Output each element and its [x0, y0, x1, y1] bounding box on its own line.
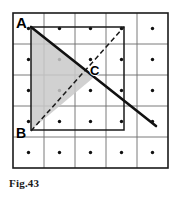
- grid-dot: [27, 27, 30, 30]
- grid-dot: [151, 27, 154, 30]
- grid-dot: [89, 151, 92, 154]
- figure-caption: Fig.43: [9, 177, 39, 189]
- grid-dot: [89, 120, 92, 123]
- grid-dot: [120, 151, 123, 154]
- grid-dot: [151, 58, 154, 61]
- grid-dot: [151, 151, 154, 154]
- grid-dot: [151, 89, 154, 92]
- grid-dot: [89, 58, 92, 61]
- grid-dot: [27, 120, 30, 123]
- grid-dot: [58, 151, 61, 154]
- point-label-b: B: [16, 126, 26, 140]
- grid-dot: [27, 58, 30, 61]
- grid-dot: [89, 89, 92, 92]
- grid-dot: [120, 58, 123, 61]
- figure-container: A B C Fig.43: [0, 0, 182, 199]
- grid-dot: [120, 120, 123, 123]
- grid-dot: [27, 89, 30, 92]
- grid-dot: [58, 120, 61, 123]
- point-label-a: A: [16, 15, 27, 30]
- grid-dot: [27, 151, 30, 154]
- grid-dot: [120, 89, 123, 92]
- figure-drawing: [0, 0, 182, 199]
- point-label-c: C: [90, 64, 99, 77]
